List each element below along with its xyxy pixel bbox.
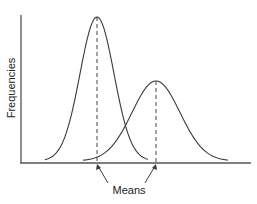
arrow-to-left-mean [96, 164, 108, 183]
distribution-curve-right [83, 81, 228, 160]
y-axis-label: Frequencies [5, 53, 17, 123]
arrow-to-right-mean [145, 164, 157, 183]
distribution-chart [0, 0, 257, 204]
means-label: Means [107, 184, 151, 196]
